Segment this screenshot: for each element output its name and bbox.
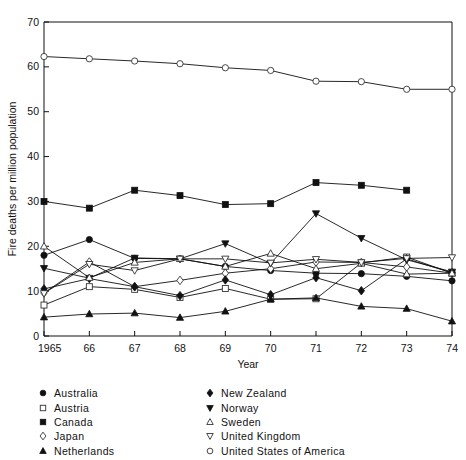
legend-item[interactable]: Netherlands bbox=[36, 444, 114, 458]
legend-marker-open-square-icon bbox=[36, 401, 54, 415]
data-point-filled-square bbox=[404, 187, 410, 193]
data-point-filled-square bbox=[358, 182, 364, 188]
y-tick-label: 20 bbox=[27, 240, 39, 252]
data-point-filled-triangle-up bbox=[131, 309, 138, 315]
data-point-filled-square bbox=[41, 198, 47, 204]
data-point-open-circle bbox=[449, 86, 455, 92]
legend-item-label: Sweden bbox=[221, 416, 261, 428]
legend-marker-filled-triangle-up-icon bbox=[36, 444, 54, 458]
series-layer bbox=[40, 53, 455, 324]
data-point-filled-diamond bbox=[222, 276, 228, 285]
y-axis-title: Fire deaths per million population bbox=[6, 102, 18, 257]
legend-marker-filled-triangle-down-icon bbox=[203, 401, 221, 415]
legend-item-label: Netherlands bbox=[54, 445, 114, 457]
data-point-open-triangle-down bbox=[207, 434, 214, 440]
data-point-open-circle bbox=[86, 56, 92, 62]
legend-item[interactable]: Canada bbox=[36, 415, 114, 429]
legend-item[interactable]: Japan bbox=[36, 429, 114, 443]
data-point-filled-circle bbox=[86, 236, 92, 242]
x-tick-label: 72 bbox=[355, 342, 367, 354]
data-point-filled-triangle-up bbox=[86, 310, 93, 316]
data-point-open-triangle-down bbox=[267, 260, 274, 266]
x-tick-label: 73 bbox=[401, 342, 413, 354]
data-point-open-circle bbox=[41, 53, 47, 59]
data-point-open-triangle-up bbox=[267, 250, 274, 256]
legend-item-label: Austria bbox=[54, 402, 89, 414]
data-point-open-diamond bbox=[40, 432, 46, 440]
x-tick-label: 1965 bbox=[38, 342, 62, 354]
data-point-filled-square bbox=[132, 187, 138, 193]
data-point-open-circle bbox=[132, 58, 138, 64]
chart-figure: 0102030405060701965666768697071727374Yea… bbox=[0, 0, 466, 460]
data-point-filled-diamond bbox=[207, 389, 213, 397]
data-point-open-circle bbox=[313, 78, 319, 84]
legend-item-label: Norway bbox=[221, 402, 259, 414]
legend-item-label: Japan bbox=[54, 430, 84, 442]
series-canada bbox=[41, 180, 410, 212]
legend-item[interactable]: United States of America bbox=[203, 444, 345, 458]
data-point-filled-square bbox=[40, 419, 45, 424]
y-tick-label: 10 bbox=[27, 285, 39, 297]
data-point-open-square bbox=[86, 284, 92, 290]
y-tick-label: 30 bbox=[27, 195, 39, 207]
data-point-open-circle bbox=[207, 448, 213, 454]
data-point-open-circle bbox=[358, 79, 364, 85]
data-point-open-triangle-down bbox=[131, 268, 138, 274]
data-point-open-triangle-down bbox=[448, 255, 455, 261]
series-new-zealand bbox=[41, 255, 455, 300]
y-tick-label: 70 bbox=[27, 16, 39, 28]
chart-legend: AustraliaAustriaCanadaJapanNetherlands N… bbox=[0, 386, 466, 460]
legend-item[interactable]: Australia bbox=[36, 386, 114, 400]
x-tick-label: 69 bbox=[219, 342, 231, 354]
data-point-filled-circle bbox=[41, 252, 47, 258]
data-point-filled-triangle-up bbox=[40, 447, 47, 453]
data-point-open-circle bbox=[268, 67, 274, 73]
data-point-filled-square bbox=[86, 205, 92, 211]
y-tick-label: 50 bbox=[27, 105, 39, 117]
y-tick-label: 40 bbox=[27, 150, 39, 162]
data-point-filled-square bbox=[177, 193, 183, 199]
line-chart-plot: 0102030405060701965666768697071727374Yea… bbox=[0, 0, 466, 386]
data-point-filled-triangle-down bbox=[358, 235, 365, 241]
data-point-open-square bbox=[222, 285, 228, 291]
legend-item-label: New Zealand bbox=[221, 387, 287, 399]
legend-item-label: Australia bbox=[54, 387, 98, 399]
legend-marker-filled-square-icon bbox=[36, 415, 54, 429]
series-netherlands bbox=[40, 294, 455, 324]
legend-column-left: AustraliaAustriaCanadaJapanNetherlands bbox=[36, 386, 114, 458]
legend-marker-open-triangle-down-icon bbox=[203, 429, 221, 443]
data-point-open-circle bbox=[177, 61, 183, 67]
data-point-filled-circle bbox=[449, 278, 455, 284]
legend-marker-filled-diamond-icon bbox=[203, 386, 221, 400]
x-tick-label: 74 bbox=[446, 342, 458, 354]
data-point-filled-triangle-down bbox=[207, 405, 214, 411]
y-tick-label: 0 bbox=[33, 330, 39, 342]
data-point-filled-circle bbox=[358, 271, 364, 277]
series-united-states-of-america bbox=[41, 53, 455, 92]
x-tick-label: 71 bbox=[310, 342, 322, 354]
data-point-filled-square bbox=[313, 180, 319, 186]
legend-item[interactable]: New Zealand bbox=[203, 386, 345, 400]
x-axis-title: Year bbox=[237, 358, 259, 370]
legend-marker-open-diamond-icon bbox=[36, 429, 54, 443]
legend-marker-open-circle-icon bbox=[203, 444, 221, 458]
x-tick-label: 66 bbox=[83, 342, 95, 354]
data-point-open-square bbox=[41, 302, 47, 308]
data-point-open-triangle-up bbox=[207, 419, 214, 425]
data-point-open-diamond bbox=[177, 276, 183, 285]
legend-item[interactable]: Sweden bbox=[203, 415, 345, 429]
legend-marker-open-triangle-up-icon bbox=[203, 415, 221, 429]
axis-labels: 0102030405060701965666768697071727374Yea… bbox=[6, 16, 458, 370]
data-point-open-square bbox=[40, 405, 45, 410]
data-point-filled-square bbox=[268, 201, 274, 207]
legend-item[interactable]: Norway bbox=[203, 400, 345, 414]
data-point-filled-circle bbox=[40, 390, 46, 396]
legend-item[interactable]: United Kingdom bbox=[203, 429, 345, 443]
series-japan bbox=[41, 258, 455, 297]
legend-item[interactable]: Austria bbox=[36, 400, 114, 414]
legend-item-label: United Kingdom bbox=[221, 430, 301, 442]
data-point-open-circle bbox=[404, 86, 410, 92]
data-point-open-triangle-up bbox=[40, 243, 47, 249]
data-point-filled-square bbox=[222, 202, 228, 208]
data-point-open-circle bbox=[222, 65, 228, 71]
